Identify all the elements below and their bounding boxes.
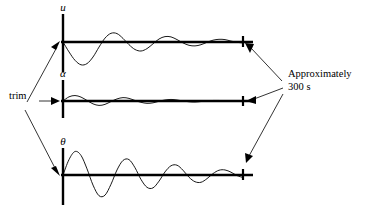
- duration-label-line1: Approximately: [288, 68, 352, 79]
- duration-annotation: Approximately 300 s: [245, 43, 352, 163]
- figure-canvas: u α θ trim: [0, 0, 371, 212]
- panel-u-axis-label: u: [60, 1, 66, 13]
- trim-arrowhead-theta: [51, 166, 60, 176]
- trim-annotation: trim: [9, 41, 60, 176]
- trim-leader-to-theta: [25, 110, 56, 170]
- duration-label-line2: 300 s: [288, 81, 310, 92]
- panel-u: u: [60, 1, 253, 72]
- panel-alpha-axis-label: α: [60, 67, 66, 79]
- trim-label: trim: [9, 90, 27, 101]
- duration-arrowhead-theta: [245, 153, 253, 163]
- duration-leader-to-u: [251, 48, 282, 81]
- trim-arrowhead-u: [51, 41, 60, 50]
- trim-leader-to-u: [27, 47, 57, 102]
- duration-leader-to-alpha: [254, 88, 283, 99]
- panel-theta: θ: [60, 135, 253, 205]
- duration-arrowhead-u: [245, 43, 254, 53]
- response-plots-figure: u α θ trim: [0, 0, 371, 212]
- panel-theta-axis-label: θ: [60, 135, 66, 147]
- panel-alpha: α: [60, 67, 253, 118]
- trim-arrowhead-alpha: [51, 97, 60, 105]
- panel-u-trace: [63, 33, 243, 65]
